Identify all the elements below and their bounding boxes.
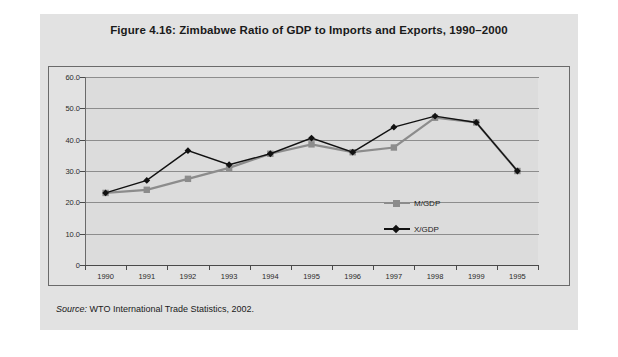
x-tick-label: 1993 [206, 272, 252, 281]
x-tick-label: 1995 [494, 272, 540, 281]
source-text: WTO International Trade Statistics, 2002… [90, 304, 254, 314]
x-tick-label: 1996 [330, 272, 376, 281]
diamond-marker-icon [392, 225, 400, 233]
legend-label-m-gdp: M/GDP [414, 199, 440, 208]
y-tick-label: 30.0 [44, 167, 80, 176]
y-tick-mark [80, 234, 85, 235]
x-tick-label: 1995 [289, 272, 335, 281]
gridline [86, 140, 539, 141]
legend-label-x-gdp: X/GDP [414, 225, 439, 234]
x-tick-mark [538, 265, 539, 270]
x-tick-mark [373, 265, 374, 270]
y-tick-mark [80, 171, 85, 172]
y-tick-label: 50.0 [44, 104, 80, 113]
x-tick-label: 1990 [83, 272, 129, 281]
y-tick-label: 40.0 [44, 135, 80, 144]
x-tick-mark [332, 265, 333, 270]
legend-item-m-gdp[interactable]: M/GDP [378, 190, 474, 216]
source-note: Source: WTO International Trade Statisti… [56, 304, 254, 314]
x-tick-mark [167, 265, 168, 270]
gridline [86, 77, 539, 78]
x-tick-label: 1991 [124, 272, 170, 281]
x-tick-mark [250, 265, 251, 270]
gridline [86, 108, 539, 109]
x-tick-label: 1999 [453, 272, 499, 281]
x-tick-mark [456, 265, 457, 270]
x-tick-label: 1992 [165, 272, 211, 281]
y-tick-mark [80, 202, 85, 203]
y-tick-label: 10.0 [44, 229, 80, 238]
x-tick-mark [209, 265, 210, 270]
x-tick-mark [85, 265, 86, 270]
x-axis-line [85, 265, 538, 266]
x-tick-label: 1997 [371, 272, 417, 281]
y-tick-label: 60.0 [44, 73, 80, 82]
gridline [86, 171, 539, 172]
square-marker-icon [393, 200, 400, 207]
x-tick-label: 1998 [412, 272, 458, 281]
y-tick-mark [80, 140, 85, 141]
y-tick-label: 20.0 [44, 198, 80, 207]
y-tick-label: 0 [44, 261, 80, 270]
x-tick-mark [126, 265, 127, 270]
legend-item-x-gdp[interactable]: X/GDP [378, 216, 474, 242]
y-tick-mark [80, 108, 85, 109]
figure-page: Figure 4.16: Zimbabwe Ratio of GDP to Im… [0, 0, 618, 357]
y-tick-mark [80, 77, 85, 78]
x-tick-label: 1994 [247, 272, 293, 281]
legend: M/GDP X/GDP [378, 190, 474, 242]
x-tick-mark [414, 265, 415, 270]
source-label: Source: [56, 304, 87, 314]
x-tick-mark [497, 265, 498, 270]
x-tick-mark [291, 265, 292, 270]
page-title: Figure 4.16: Zimbabwe Ratio of GDP to Im… [40, 24, 578, 36]
